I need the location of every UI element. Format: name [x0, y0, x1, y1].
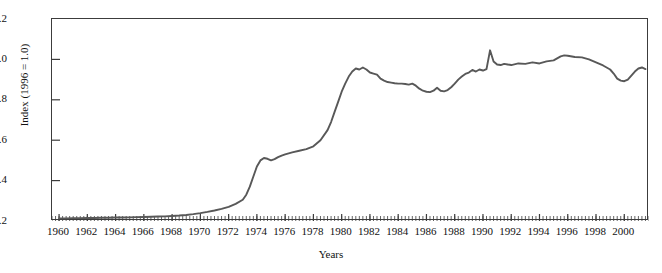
y-axis-title: Index (1996 = 1.0) — [18, 5, 30, 165]
plot-area — [52, 19, 649, 221]
plot-frame — [51, 18, 648, 220]
figure-caption — [0, 0, 662, 7]
y-tick-label: 0.6 — [0, 134, 7, 145]
figure-container: Index (1996 = 1.0) 1.21.00.80.60.40.2 19… — [0, 0, 662, 273]
x-axis-title: Years — [0, 248, 662, 260]
y-tick-label: 1.2 — [0, 13, 7, 24]
y-tick-label: 0.4 — [0, 174, 7, 185]
y-tick-label: 0.8 — [0, 93, 7, 104]
data-series-line — [59, 50, 645, 218]
y-tick-label: 0.2 — [0, 215, 7, 226]
y-tick-label: 1.0 — [0, 53, 7, 64]
x-tick-label: 2000 — [600, 226, 646, 237]
